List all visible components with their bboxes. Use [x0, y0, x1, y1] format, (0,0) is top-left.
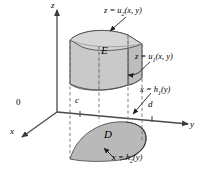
solid-region-E [70, 30, 142, 90]
upper-surface-label: z = u2(x, y) [104, 6, 142, 17]
figure-canvas [0, 0, 207, 174]
upper-surface-suffix: (x, y) [124, 5, 141, 15]
lower-surface-suffix: (x, y) [155, 51, 172, 61]
base-region-label: D [104, 129, 112, 140]
front-boundary-label: x = h2(y) [112, 153, 142, 164]
origin-label: 0 [16, 98, 21, 107]
leader-u2 [110, 17, 126, 31]
z-axis-label: z [51, 1, 55, 10]
triple-integral-figure: z y x 0 c d E D z = u2(x, y) z = u1(x, y… [0, 0, 207, 174]
lower-surface-label: z = u1(x, y) [135, 52, 173, 63]
x-axis-label: x [10, 127, 14, 136]
solid-region-label: E [101, 45, 108, 56]
front-boundary-prefix: x = h [112, 152, 130, 162]
tick-label-c: c [75, 96, 79, 105]
y-axis-label: y [190, 120, 194, 129]
front-boundary-suffix: (y) [133, 152, 142, 162]
back-boundary-suffix: (y) [161, 84, 170, 94]
x-axis [22, 112, 57, 137]
tick-label-d: d [148, 100, 153, 109]
back-boundary-label: x = h1(y) [140, 85, 170, 96]
back-boundary-prefix: x = h [140, 84, 158, 94]
lower-surface-prefix: z = u [135, 51, 153, 61]
upper-surface-prefix: z = u [104, 5, 122, 15]
